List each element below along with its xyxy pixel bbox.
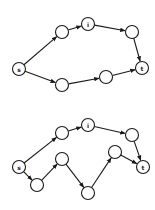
edge-b-t [134,38,140,61]
edge-g-h [92,158,112,188]
node-b [126,129,139,142]
node-f [56,153,69,166]
edge-i-b [94,126,125,133]
edge-a-i [68,127,81,131]
node-d [100,71,113,84]
edge-i-b [94,25,125,31]
node-a [56,127,69,140]
node-label-i: i [87,21,89,28]
top-graph: sit [13,18,149,92]
node-c [56,79,69,92]
edge-e-f [42,164,58,180]
edge-b-t [134,141,141,160]
node-e [31,179,44,192]
edge-a-i [68,26,81,30]
edge-c-d [68,78,99,84]
edge-f-g [66,164,84,187]
node-h [109,146,122,159]
path-diagram: sitsit [0,0,155,210]
bottom-graph: sit [13,119,150,200]
node-b [126,26,139,39]
edge-s-a [24,37,57,65]
node-g [82,187,95,200]
node-a [56,26,69,39]
node-label-t: t [142,164,145,171]
node-label-i: i [87,122,89,129]
node-label-s: s [17,164,21,171]
edge-s-e [24,172,32,180]
node-label-t: t [141,65,144,72]
edge-h-t [121,155,137,164]
edge-d-t [112,70,135,76]
edge-s-c [25,71,55,82]
edge-s-a [24,137,56,163]
node-label-s: s [17,66,21,73]
